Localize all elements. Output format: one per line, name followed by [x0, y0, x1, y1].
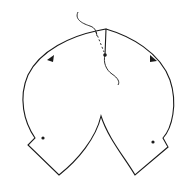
- point-center-top: [103, 53, 107, 57]
- diagram-canvas: [0, 0, 187, 184]
- point-right-lobe: [151, 140, 154, 143]
- arrow-right-lobe: [150, 55, 157, 62]
- point-left-lobe: [41, 136, 44, 139]
- closed-contour: [23, 29, 174, 175]
- arrow-left-lobe: [47, 55, 54, 62]
- wavy-cut: [77, 12, 119, 85]
- contour-diagram: [0, 0, 187, 184]
